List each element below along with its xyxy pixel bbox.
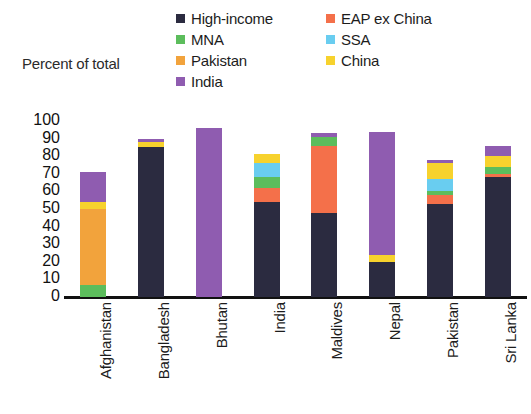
bar-segment[interactable] [427,163,453,179]
x-axis-label-text: Bhutan [209,302,235,348]
y-axis-tick-80: 80 [14,147,60,163]
y-axis-tick-100: 100 [14,112,60,128]
bar-segment[interactable] [485,177,511,297]
x-axis-label-text: Maldives [324,302,350,360]
stacked-bar[interactable] [427,160,453,297]
bar-segment[interactable] [80,172,106,202]
x-axis-label: Afghanistan [80,300,106,410]
bar-segment[interactable] [254,177,280,188]
bar-series-container [64,120,527,297]
x-axis-label: Bhutan [196,300,222,410]
bar-segment[interactable] [485,156,511,167]
y-axis-tick-0: 0 [14,288,60,304]
y-axis-tick-50: 50 [14,200,60,216]
bar-segment[interactable] [80,202,106,209]
stacked-bar[interactable] [138,139,164,297]
bar-segment[interactable] [311,146,337,213]
x-axis-label-text: Pakistan [440,302,466,358]
x-axis-label: Bangladesh [138,300,164,410]
y-axis-tick-20: 20 [14,253,60,269]
y-axis-tick-60: 60 [14,182,60,198]
stacked-bar[interactable] [80,172,106,297]
y-axis-tick-40: 40 [14,218,60,234]
y-axis-tick-90: 90 [14,130,60,146]
stacked-bar[interactable] [311,133,337,297]
x-axis-label-text: Sri Lanka [498,302,524,364]
bar-segment[interactable] [369,132,395,255]
bar-segment[interactable] [427,204,453,297]
x-axis-label: Sri Lanka [485,300,511,410]
bar-segment[interactable] [80,285,106,297]
bar-segment[interactable] [485,167,511,174]
bar-segment[interactable] [427,179,453,191]
bar-segment[interactable] [254,154,280,163]
bar-segment[interactable] [485,146,511,157]
y-axis-tick-10: 10 [14,270,60,286]
bar-segment[interactable] [427,195,453,204]
stacked-bar[interactable] [485,146,511,297]
x-axis-label: Maldives [311,300,337,410]
bar-segment[interactable] [369,262,395,297]
x-axis-category-labels: AfghanistanBangladeshBhutanIndiaMaldives… [64,300,527,414]
x-axis-label: Pakistan [427,300,453,410]
bar-segment[interactable] [311,213,337,297]
x-axis-label-text: Nepal [382,302,408,340]
x-axis-label: India [254,300,280,410]
bar-segment[interactable] [138,147,164,297]
x-axis-label-text: India [267,302,293,334]
x-axis-label: Nepal [369,300,395,410]
y-axis-tick-30: 30 [14,235,60,251]
bar-segment[interactable] [196,128,222,297]
bar-segment[interactable] [311,137,337,146]
stacked-bar[interactable] [196,128,222,297]
chart-plot-area: 0102030405060708090100 AfghanistanBangla… [0,0,531,414]
bar-segment[interactable] [369,255,395,262]
bar-segment[interactable] [254,163,280,177]
y-axis-tick-70: 70 [14,165,60,181]
stacked-bar[interactable] [254,154,280,297]
x-axis-label-text: Bangladesh [151,302,177,379]
bar-segment[interactable] [254,188,280,202]
bar-segment[interactable] [80,209,106,285]
x-axis-label-text: Afghanistan [93,302,119,379]
y-axis-tick-labels: 0102030405060708090100 [14,0,60,414]
bar-segment[interactable] [254,202,280,297]
stacked-bar[interactable] [369,132,395,297]
